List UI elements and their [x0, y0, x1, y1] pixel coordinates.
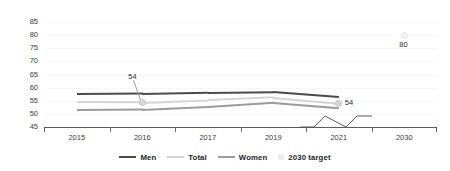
y-tick-label: 80	[16, 31, 38, 39]
gridline	[44, 35, 437, 36]
y-axis: 858075706560555045	[12, 22, 38, 127]
x-tick	[110, 127, 111, 132]
x-tick	[306, 127, 307, 132]
y-tick-label: 85	[16, 18, 38, 26]
y-tick-label: 45	[16, 123, 38, 131]
x-tick	[241, 127, 242, 132]
legend-label: 2030 target	[288, 153, 330, 162]
legend-swatch-icon	[119, 156, 136, 158]
x-axis-right-cap	[436, 127, 437, 132]
x-tick-label: 2016	[110, 133, 176, 142]
y-tick-label: 50	[16, 110, 38, 118]
x-tick-label: 2019	[241, 133, 307, 142]
x-tick-label: 2017	[175, 133, 241, 142]
clipped-header-text	[0, 0, 450, 9]
x-tick	[175, 127, 176, 132]
gridline	[44, 114, 437, 115]
legend-item-women[interactable]: Women	[218, 153, 268, 162]
data-marker-target-2030	[401, 32, 408, 39]
x-tick-label: 2015	[44, 133, 110, 142]
data-label-2021: 54	[345, 98, 353, 107]
gridline	[44, 75, 437, 76]
legend-label: Women	[239, 153, 268, 162]
gridline	[44, 48, 437, 49]
data-marker-total-2016	[139, 99, 146, 106]
data-label-2030: 80	[399, 40, 407, 49]
legend-label: Men	[140, 153, 156, 162]
gridline	[44, 61, 437, 62]
data-label-2016: 54	[128, 72, 136, 81]
series-line-men	[208, 91, 274, 94]
y-tick-label: 65	[16, 71, 38, 79]
legend-swatch-icon	[278, 154, 284, 160]
legend-item-2030-target[interactable]: 2030 target	[278, 153, 330, 162]
axis-break-zigzag	[300, 110, 372, 132]
legend-swatch-icon	[218, 156, 235, 158]
plot-area	[44, 22, 437, 127]
legend-label: Total	[188, 153, 207, 162]
legend: MenTotalWomen2030 target	[0, 150, 450, 164]
legend-item-total[interactable]: Total	[167, 153, 207, 162]
x-axis-left-cap	[44, 127, 45, 132]
y-tick-label: 70	[16, 57, 38, 65]
line-chart: 858075706560555045 201520162017201920212…	[0, 0, 450, 171]
legend-item-men[interactable]: Men	[119, 153, 156, 162]
legend-swatch-icon	[167, 156, 184, 158]
gridline	[44, 88, 437, 89]
x-tick	[372, 127, 373, 132]
y-tick-label: 75	[16, 44, 38, 52]
x-tick-label: 2030	[372, 133, 438, 142]
y-tick-label: 55	[16, 97, 38, 105]
y-tick-label: 60	[16, 84, 38, 92]
x-tick-label: 2021	[306, 133, 372, 142]
gridline	[44, 22, 437, 23]
